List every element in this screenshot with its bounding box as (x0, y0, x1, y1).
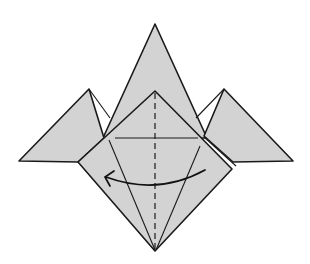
origami-diagram (0, 0, 310, 264)
right-flap (204, 89, 293, 162)
